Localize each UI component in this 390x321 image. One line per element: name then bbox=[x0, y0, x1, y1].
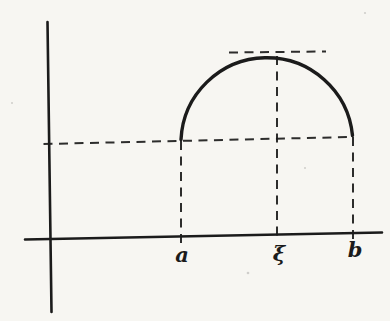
y-axis bbox=[48, 22, 52, 312]
paper-speck bbox=[11, 102, 13, 104]
tangent-dashed-line bbox=[229, 52, 326, 53]
label-xi: ξ bbox=[273, 241, 287, 266]
paper-speck bbox=[247, 272, 250, 275]
x-axis bbox=[25, 233, 382, 240]
label-a: a bbox=[175, 242, 189, 267]
paper-speck bbox=[304, 167, 306, 169]
math-figure: a ξ b bbox=[0, 0, 390, 321]
paper-speck bbox=[364, 12, 366, 14]
function-curve bbox=[181, 58, 353, 140]
label-b: b bbox=[348, 237, 363, 262]
figure-canvas: a ξ b bbox=[0, 0, 390, 321]
ordinate-level-dashed-line bbox=[44, 137, 353, 144]
